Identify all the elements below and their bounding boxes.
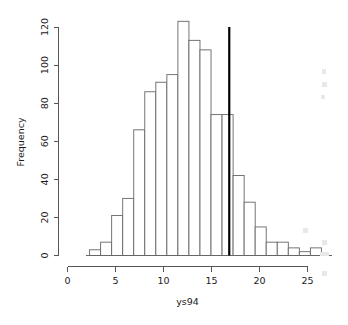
- y-axis-tick-label: 80: [39, 97, 50, 109]
- histogram-bar: [178, 21, 189, 255]
- y-axis-tick-label: 0: [39, 252, 50, 258]
- histogram-bars: [90, 21, 322, 255]
- histogram-bar: [134, 130, 145, 256]
- x-axis-tick-label: 5: [112, 275, 118, 286]
- histogram-bar: [277, 242, 288, 255]
- histogram-bar: [123, 198, 134, 255]
- histogram-bar: [145, 92, 156, 256]
- histogram-bar: [310, 248, 321, 256]
- histogram-bar: [233, 176, 244, 256]
- histogram-bar: [189, 40, 200, 255]
- y-axis-ticks: 020406080100120: [39, 18, 58, 259]
- histogram-bar: [101, 242, 112, 255]
- y-axis-tick-label: 40: [39, 173, 50, 185]
- histogram-bar: [156, 82, 167, 255]
- image-artifacts: [303, 69, 329, 276]
- histogram-chart: 020406080100120 0510152025 Frequency ys9…: [0, 0, 348, 325]
- histogram-bar: [112, 216, 123, 256]
- y-axis-title: Frequency: [15, 117, 26, 166]
- histogram-plot-panel: 020406080100120 0510152025 Frequency ys9…: [0, 0, 348, 325]
- x-axis-title: ys94: [176, 296, 199, 307]
- histogram-bar: [266, 242, 277, 255]
- x-axis-tick-label: 10: [157, 275, 169, 286]
- histogram-bar: [200, 50, 211, 256]
- x-axis-tick-label: 15: [205, 275, 217, 286]
- histogram-bar: [90, 250, 101, 256]
- x-axis-tick-label: 20: [253, 275, 265, 286]
- y-axis-tick-label: 100: [39, 56, 50, 74]
- histogram-bar: [299, 252, 310, 256]
- x-axis-tick-label: 0: [64, 275, 70, 286]
- histogram-bar: [211, 115, 222, 256]
- histogram-bar: [244, 202, 255, 255]
- y-axis-tick-label: 120: [39, 18, 50, 36]
- histogram-bar: [167, 75, 178, 256]
- histogram-bar: [288, 248, 299, 256]
- x-axis: 0510152025: [64, 267, 313, 287]
- x-axis-tick-label: 25: [301, 275, 313, 286]
- histogram-bar: [222, 115, 233, 256]
- y-axis-tick-label: 20: [39, 211, 50, 223]
- x-axis-ticks: 0510152025: [64, 267, 313, 287]
- y-axis: 020406080100120: [39, 18, 58, 259]
- histogram-bar: [255, 227, 266, 256]
- y-axis-tick-label: 60: [39, 135, 50, 147]
